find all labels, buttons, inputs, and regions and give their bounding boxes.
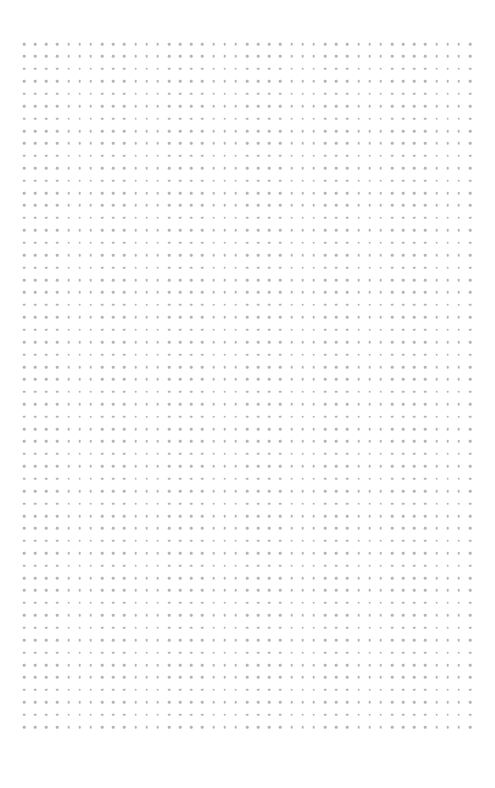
grid-dot [101, 664, 104, 667]
grid-dot [458, 465, 461, 468]
grid-dot [368, 564, 371, 567]
grid-dot [402, 502, 405, 505]
grid-dot [157, 328, 160, 331]
grid-dot [435, 217, 438, 220]
grid-dot [78, 304, 81, 307]
grid-dot [246, 130, 249, 133]
grid-dot [34, 428, 37, 431]
grid-dot [424, 241, 427, 244]
grid-dot [279, 217, 282, 220]
grid-dot [268, 713, 271, 716]
grid-dot [56, 353, 59, 356]
grid-dot [301, 614, 304, 617]
grid-dot [235, 92, 238, 95]
grid-dot [368, 664, 371, 667]
grid-dot [368, 440, 371, 443]
grid-dot [212, 167, 215, 170]
grid-dot [324, 43, 327, 46]
grid-dot [67, 154, 70, 157]
grid-dot [268, 390, 271, 393]
grid-dot [346, 527, 349, 530]
grid-dot [223, 266, 226, 269]
grid-dot [324, 179, 327, 182]
grid-dot [78, 167, 81, 170]
grid-dot [45, 154, 48, 157]
grid-dot [402, 415, 405, 418]
grid-dot [313, 229, 316, 232]
grid-dot [268, 664, 271, 667]
grid-dot [424, 589, 427, 592]
grid-dot [446, 502, 449, 505]
grid-dot [246, 204, 249, 207]
grid-dot [446, 540, 449, 543]
grid-dot [469, 266, 472, 269]
grid-dot [335, 577, 338, 580]
grid-dot [223, 105, 226, 108]
grid-dot [424, 378, 427, 381]
grid-dot [90, 316, 93, 319]
grid-dot [335, 540, 338, 543]
grid-dot [335, 304, 338, 307]
grid-dot [469, 540, 472, 543]
grid-dot [324, 217, 327, 220]
grid-dot [391, 502, 394, 505]
grid-dot [90, 68, 93, 71]
grid-dot [157, 291, 160, 294]
grid-dot [290, 440, 293, 443]
grid-dot [324, 540, 327, 543]
grid-dot [157, 130, 160, 133]
grid-dot [469, 254, 472, 257]
grid-dot [313, 564, 316, 567]
grid-dot [157, 453, 160, 456]
grid-dot [45, 55, 48, 58]
grid-dot [157, 602, 160, 605]
grid-dot [357, 453, 360, 456]
grid-dot [435, 378, 438, 381]
grid-dot [313, 92, 316, 95]
grid-dot [313, 689, 316, 692]
grid-dot [380, 490, 383, 493]
grid-dot [435, 564, 438, 567]
grid-dot [279, 279, 282, 282]
grid-dot [413, 614, 416, 617]
grid-dot [346, 142, 349, 145]
grid-dot [346, 55, 349, 58]
grid-dot [179, 639, 182, 642]
grid-dot [56, 229, 59, 232]
grid-dot [324, 502, 327, 505]
grid-dot [458, 602, 461, 605]
grid-dot [424, 415, 427, 418]
grid-dot [235, 614, 238, 617]
grid-dot [212, 266, 215, 269]
grid-dot [257, 465, 260, 468]
grid-dot [324, 378, 327, 381]
grid-dot [380, 415, 383, 418]
grid-dot [391, 651, 394, 654]
grid-dot [301, 378, 304, 381]
grid-dot [23, 328, 26, 331]
grid-dot [223, 130, 226, 133]
grid-dot [413, 676, 416, 679]
grid-dot [78, 279, 81, 282]
grid-dot [402, 254, 405, 257]
grid-dot [45, 453, 48, 456]
grid-dot [424, 639, 427, 642]
grid-dot [145, 651, 148, 654]
grid-dot [435, 639, 438, 642]
grid-dot [23, 540, 26, 543]
grid-dot [335, 403, 338, 406]
grid-dot [391, 602, 394, 605]
grid-dot [23, 676, 26, 679]
grid-dot [23, 378, 26, 381]
grid-dot [101, 465, 104, 468]
grid-dot [123, 552, 126, 555]
grid-dot [357, 676, 360, 679]
grid-dot [313, 726, 316, 729]
grid-dot [391, 428, 394, 431]
grid-dot [246, 316, 249, 319]
grid-dot [402, 304, 405, 307]
grid-dot [413, 80, 416, 83]
grid-dot [279, 353, 282, 356]
grid-dot [446, 192, 449, 195]
grid-dot [368, 626, 371, 629]
